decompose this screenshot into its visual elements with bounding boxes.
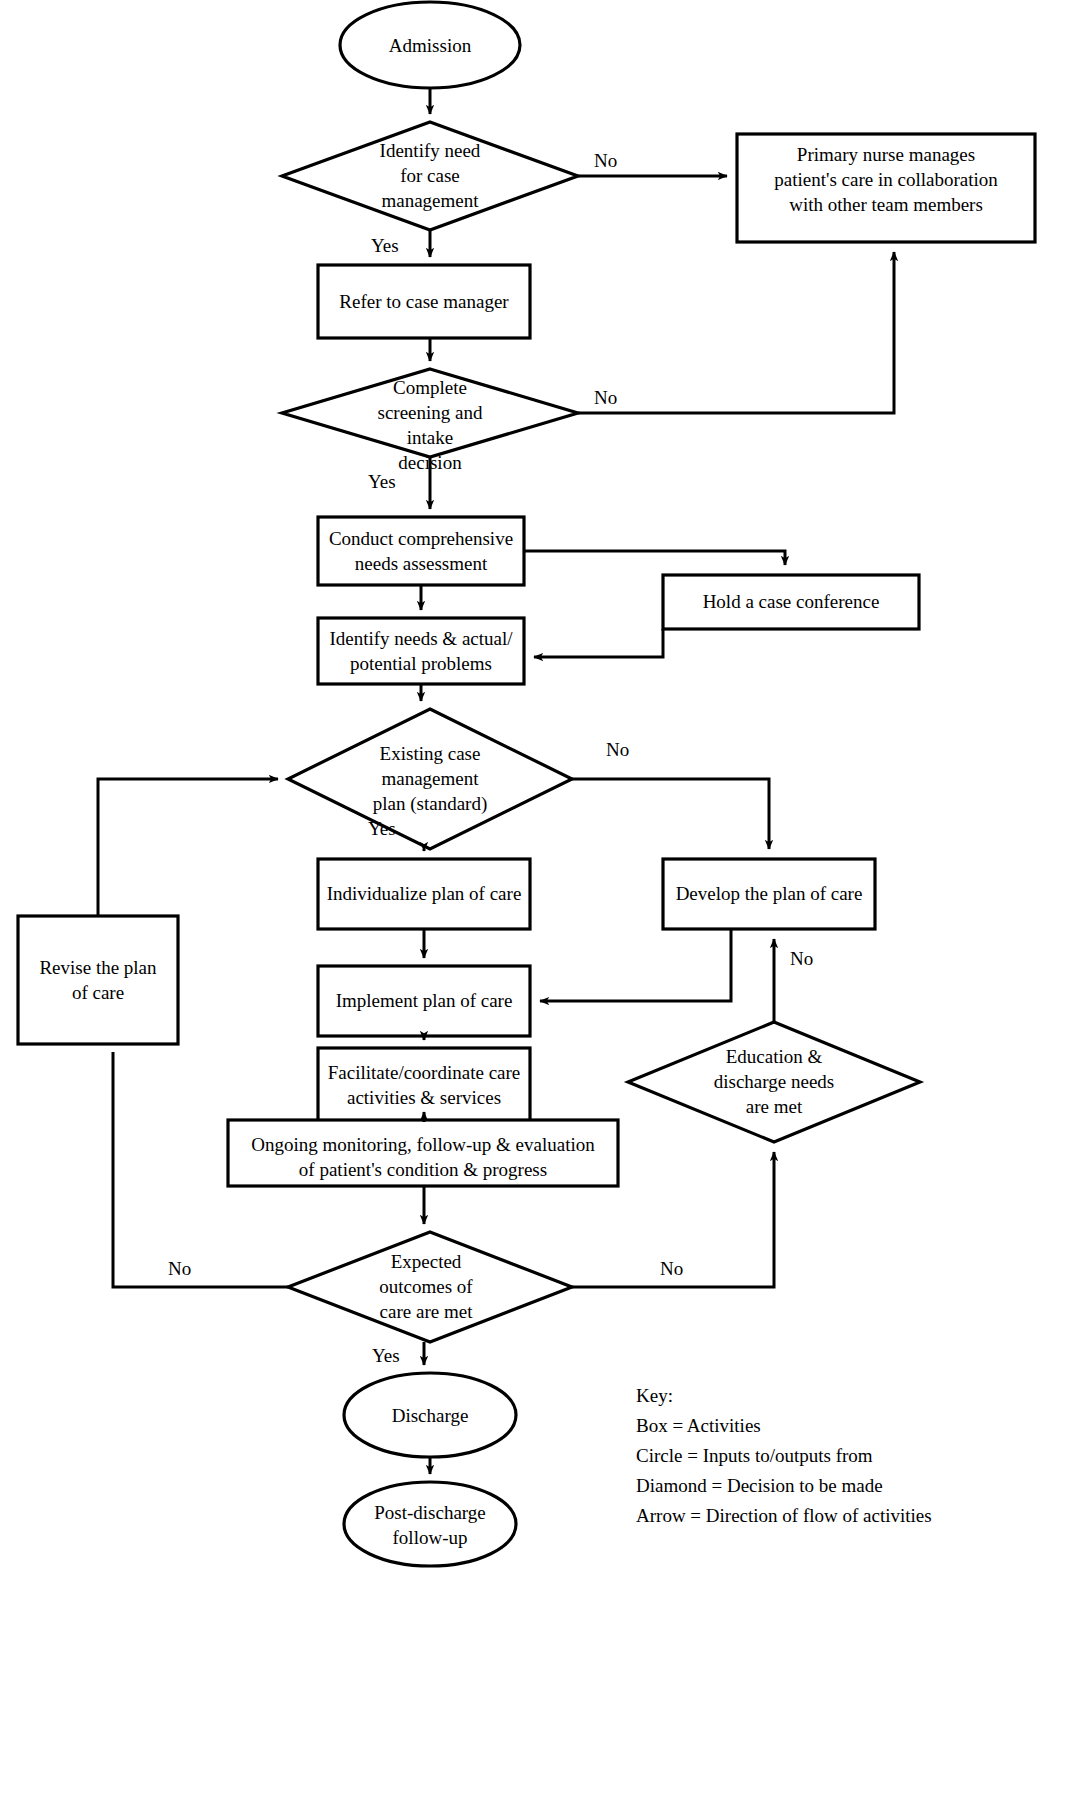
node-revise-plan-shape: [18, 916, 178, 1044]
node-case-conference-shape: [663, 575, 919, 629]
node-primary-nurse-shape: [737, 134, 1035, 242]
edge-label-identify-need-yes: Yes: [371, 235, 399, 257]
key-line-arrow: Arrow = Direction of flow of activities: [636, 1501, 932, 1531]
node-discharge-shape: [344, 1373, 516, 1457]
flowchart-canvas: Admission Identify need for case managem…: [0, 0, 1082, 1796]
node-identify-need-shape: [282, 122, 578, 230]
node-admission-shape: [340, 2, 520, 88]
edge-revise-plan-to-existing-plan: [98, 779, 278, 916]
key-line-circle: Circle = Inputs to/outputs from: [636, 1441, 932, 1471]
node-implement-shape: [318, 966, 530, 1036]
edge-label-existing-plan-no: No: [606, 739, 629, 761]
node-outcomes-shape: [288, 1232, 572, 1342]
node-identify-needs-shape: [318, 618, 524, 684]
node-education-shape: [628, 1022, 920, 1142]
edge-label-outcomes-yes: Yes: [372, 1345, 400, 1367]
edge-screening-no-to-primary-nurse: [578, 252, 894, 413]
edge-existing-plan-no-to-develop-plan: [572, 779, 769, 849]
key-line-box: Box = Activities: [636, 1411, 932, 1441]
node-develop-plan-shape: [663, 859, 875, 929]
node-post-discharge-shape: [344, 1482, 516, 1566]
node-refer-shape: [318, 265, 530, 338]
edge-label-education-no: No: [790, 948, 813, 970]
key-legend: Key: Box = Activities Circle = Inputs to…: [636, 1381, 932, 1531]
key-line-diamond: Diamond = Decision to be made: [636, 1471, 932, 1501]
edge-label-outcomes-no-left: No: [168, 1258, 191, 1280]
edge-label-screening-yes: Yes: [368, 471, 396, 493]
edge-label-identify-need-no: No: [594, 150, 617, 172]
edge-label-existing-plan-yes: Yes: [368, 818, 396, 840]
node-screening-shape: [282, 369, 578, 457]
node-existing-plan-shape: [288, 709, 572, 849]
node-individualize-shape: [318, 859, 530, 929]
edge-assessment-to-case-conference: [524, 551, 785, 565]
node-monitoring-shape: [228, 1120, 618, 1186]
key-heading: Key:: [636, 1381, 932, 1411]
edge-case-conference-to-identify-needs: [534, 629, 663, 657]
edge-label-outcomes-no-right: No: [660, 1258, 683, 1280]
edge-label-screening-no: No: [594, 387, 617, 409]
node-facilitate-shape: [318, 1048, 530, 1122]
edge-develop-plan-to-implement: [540, 929, 731, 1001]
node-assessment-shape: [318, 517, 524, 585]
